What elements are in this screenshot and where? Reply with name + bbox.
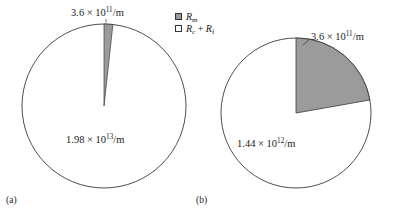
legend-item-rm: Rm (175, 11, 214, 22)
legend-label-rcrf: Rc + Rf (186, 23, 214, 34)
pie-a-large-slice-label: 1.98 × 1013/m (66, 135, 124, 146)
pie-a-large-mantissa: 1.98 (66, 134, 84, 145)
pie-b-large-mantissa: 1.44 (237, 138, 255, 149)
pie-chart-a (22, 19, 186, 188)
figure-container: Rm Rc + Rf 3.6 × 1011/m 1.98 × 1013/m 3.… (0, 0, 413, 218)
pie-chart-b (221, 38, 371, 188)
pie-b-slice-rm (296, 38, 370, 113)
pie-b-small-exponent: 11 (346, 30, 353, 38)
legend-rc-subscript: c (192, 28, 195, 36)
pie-b-small-mantissa: 3.6 (311, 31, 324, 42)
legend-rf-subscript: f (212, 28, 214, 36)
legend-plus-sign: + (198, 23, 204, 34)
pie-a-small-mantissa: 3.6 (71, 7, 84, 18)
pie-a-small-exponent: 11 (106, 6, 113, 14)
legend-item-rcrf: Rc + Rf (175, 23, 214, 34)
panel-label-b: (b) (196, 196, 207, 206)
pie-a-large-times: × (87, 134, 93, 145)
legend-swatch-filled-icon (175, 13, 182, 20)
pie-b-small-times: × (327, 31, 333, 42)
legend: Rm Rc + Rf (175, 11, 214, 35)
pie-b-large-slice-label: 1.44 × 1012/m (237, 139, 295, 150)
pie-a-small-times: × (87, 7, 93, 18)
legend-label-rm: Rm (186, 11, 198, 22)
pie-b-small-base: 10 (335, 31, 346, 42)
pie-b-small-unit: /m (353, 31, 364, 42)
pie-a-large-unit: /m (113, 134, 124, 145)
panel-label-a: (a) (6, 196, 17, 206)
legend-swatch-hollow-icon (175, 25, 182, 32)
pie-b-large-base: 10 (267, 138, 278, 149)
pie-b-large-times: × (258, 138, 264, 149)
pie-a-small-slice-label: 3.6 × 1011/m (71, 8, 124, 19)
pie-b-large-unit: /m (284, 138, 295, 149)
pie-b-small-slice-label: 3.6 × 1011/m (311, 32, 364, 43)
legend-rm-subscript: m (192, 16, 197, 24)
pie-a-small-base: 10 (95, 7, 106, 18)
pie-a-small-unit: /m (113, 7, 124, 18)
pie-a-large-base: 10 (96, 134, 107, 145)
